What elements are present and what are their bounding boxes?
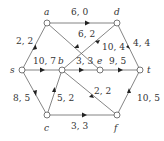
- edge-label-s-a: 2, 2: [16, 37, 33, 46]
- edge-label-s-c: 8, 5: [13, 94, 30, 103]
- arrow-c-f-icon: [82, 113, 87, 118]
- node-label-c: c: [44, 124, 49, 133]
- edge-label-e-t: 9, 5: [109, 57, 126, 66]
- edge-label-b-d: 10, 4: [102, 43, 125, 52]
- edge-label-a-e: 6, 2: [78, 30, 95, 39]
- node-b: [59, 67, 65, 73]
- node-f: [114, 112, 120, 118]
- node-a: [44, 20, 50, 26]
- node-c: [44, 112, 50, 118]
- node-label-d: d: [114, 8, 120, 17]
- arrow-a-e-icon: [74, 44, 79, 48]
- node-label-a: a: [44, 8, 49, 17]
- node-s: [19, 67, 25, 73]
- arrow-b-d-icon: [95, 40, 100, 44]
- edge-label-c-f: 3, 3: [71, 122, 88, 131]
- node-label-e: e: [97, 57, 102, 66]
- arrow-a-d-icon: [85, 21, 90, 26]
- edge-label-c-b: 5, 2: [57, 94, 74, 103]
- node-t: [137, 67, 143, 73]
- node-label-s: s: [10, 66, 15, 75]
- node-label-t: t: [147, 66, 151, 75]
- arrow-e-t-icon: [118, 68, 123, 73]
- edge-label-f-t: 10, 5: [137, 94, 160, 103]
- edge-label-b-e: 3, 3: [76, 57, 93, 66]
- edge-label-a-d: 6, 0: [71, 8, 88, 17]
- node-label-b: b: [58, 57, 64, 66]
- node-e: [97, 67, 103, 73]
- node-d: [114, 20, 120, 26]
- arrow-s-b-icon: [40, 68, 45, 73]
- flow-network-diagram: a d s b e t c f 2, 2 6, 0 6, 2 10, 7 3, …: [0, 0, 164, 141]
- edge-label-b-f: 2, 2: [94, 87, 111, 96]
- graph-edges: [0, 0, 164, 141]
- edge-label-s-b: 10, 7: [33, 57, 56, 66]
- arrow-d-t-icon: [126, 45, 130, 49]
- arrow-b-e-icon: [79, 68, 84, 73]
- node-label-f: f: [114, 124, 117, 133]
- edge-label-d-t: 4, 4: [133, 39, 150, 48]
